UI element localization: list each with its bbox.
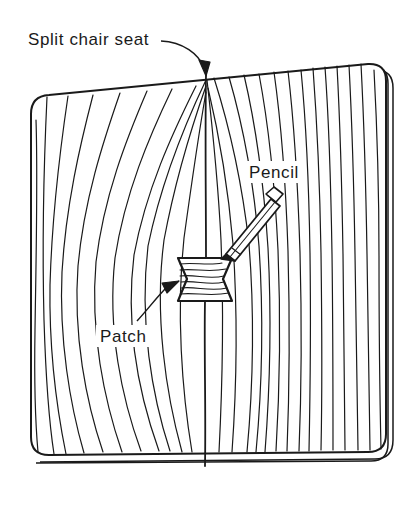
split-chair-seat-figure: Split chair seat Pencil Patch — [0, 0, 410, 507]
label-pencil-text: Pencil — [249, 163, 299, 182]
label-patch: Patch — [96, 325, 152, 347]
leader-split-chair-seat — [161, 41, 210, 76]
label-split-chair-seat: Split chair seat — [24, 28, 158, 50]
label-patch-text: Patch — [100, 327, 146, 346]
label-pencil: Pencil — [245, 161, 305, 183]
label-split-chair-seat-text: Split chair seat — [28, 30, 149, 49]
bowtie-patch — [178, 258, 232, 301]
